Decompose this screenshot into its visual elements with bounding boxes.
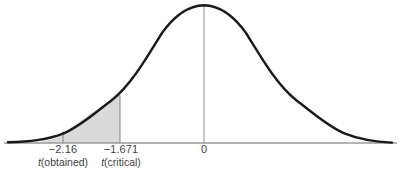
shaded-tail-region xyxy=(8,95,120,143)
critical-value-label: −1.671 xyxy=(101,144,141,156)
obtained-name-label: t(obtained) xyxy=(38,157,88,168)
marker-label-critical: −1.671 t(critical) xyxy=(101,144,141,168)
obtained-value-label: −2.16 xyxy=(38,144,88,156)
t-distribution-figure: −2.16 t(obtained) −1.671 t(critical) 0 xyxy=(0,0,400,173)
center-value-label: 0 xyxy=(201,144,207,156)
marker-label-center: 0 xyxy=(201,144,207,156)
critical-name-label: t(critical) xyxy=(101,157,141,168)
obtained-suffix: (obtained) xyxy=(41,156,88,168)
bell-curve-path xyxy=(8,5,392,142)
marker-label-obtained: −2.16 t(obtained) xyxy=(38,144,88,168)
critical-suffix: (critical) xyxy=(104,156,141,168)
